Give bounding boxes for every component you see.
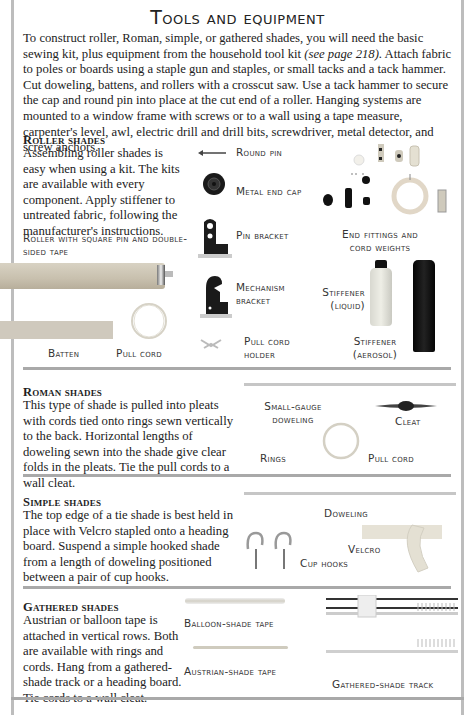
caption-pull-cord: Pull cord — [116, 347, 162, 360]
caption-pin-bracket: Pin bracket — [236, 229, 289, 242]
rings-icon — [320, 420, 362, 462]
doweling-illustration — [244, 383, 456, 386]
caption-cup-hooks: Cup hooks — [300, 557, 348, 570]
page-border-left — [11, 0, 14, 715]
section-body: Austrian or balloon tape is attached in … — [23, 613, 183, 707]
caption-line: cord weights — [330, 241, 430, 254]
end-fittings-illustration — [314, 140, 454, 235]
caption-pull-cord-roman: Pull cord — [368, 452, 414, 465]
austrian-tape-illustration — [193, 646, 288, 649]
pin-bracket-icon — [198, 216, 232, 262]
caption-doweling: Doweling — [324, 507, 368, 520]
caption-line: doweling — [258, 413, 328, 426]
caption-line: Stiffener — [310, 286, 365, 299]
caption-cleat: Cleat — [395, 415, 421, 428]
section-body: Assembling roller shades is easy when us… — [23, 146, 183, 240]
caption-batten: Batten — [48, 347, 79, 360]
caption-stiffener-aerosol: Stiffener (aerosol) — [345, 335, 405, 361]
caption-round-pin: Round pin — [236, 146, 282, 159]
caption-line: Small-gauge — [258, 400, 328, 413]
mechanism-bracket-icon — [198, 274, 232, 322]
caption-metal-end-cap: Metal end cap — [236, 185, 301, 198]
round-pin-icon — [198, 149, 228, 157]
caption-roller: Roller with square pin and double-sided … — [23, 232, 193, 258]
caption-line: Mechanism — [236, 281, 285, 294]
caption-velcro: Velcro — [348, 543, 381, 556]
section-body: This type of shade is pulled into pleats… — [23, 398, 233, 492]
caption-mechanism-bracket: Mechanism bracket — [236, 281, 285, 307]
section-divider — [23, 367, 451, 370]
caption-line: (aerosol) — [345, 348, 405, 361]
caption-rings: Rings — [260, 452, 286, 465]
caption-end-fittings: End fittings and cord weights — [330, 228, 430, 254]
caption-line: Pull cord — [244, 335, 290, 348]
roller-illustration — [0, 263, 165, 289]
roller-pin-icon — [157, 265, 165, 285]
caption-line: holder — [244, 348, 290, 361]
doweling-rod — [244, 492, 456, 495]
caption-line: End fittings and — [330, 228, 430, 241]
pull-cord-holder-icon — [200, 338, 222, 350]
section-body: The top edge of a tie shade is best held… — [23, 508, 238, 586]
batten-illustration — [0, 321, 113, 339]
square-pin-icon — [165, 271, 173, 277]
stiffener-liquid-bottle — [370, 260, 392, 326]
caption-balloon-tape: Balloon-shade tape — [184, 617, 274, 630]
stiffener-aerosol-can — [413, 260, 435, 352]
page-reference: (see page 218). — [304, 47, 382, 61]
caption-stiffener-liquid: Stiffener (liquid) — [310, 286, 365, 312]
page-bottom-border — [11, 697, 464, 700]
caption-gathered-shade-track: Gathered-shade track — [332, 678, 433, 691]
metal-end-cap-icon — [202, 172, 226, 196]
balloon-tape-illustration — [185, 598, 285, 604]
page-title: Tools and equipment — [0, 6, 475, 28]
cup-hooks-icon — [242, 527, 302, 577]
cleat-icon — [375, 400, 437, 412]
page-border-right — [461, 0, 464, 715]
caption-line: bracket — [236, 294, 285, 307]
caption-small-gauge-doweling: Small-gauge doweling — [258, 400, 328, 426]
gathered-shade-track-illustration — [326, 595, 458, 675]
section-divider — [23, 474, 451, 477]
caption-line: Stiffener — [345, 335, 405, 348]
caption-line: (liquid) — [310, 299, 365, 312]
caption-austrian-tape: Austrian-shade tape — [184, 665, 276, 678]
caption-pull-cord-holder: Pull cord holder — [244, 335, 290, 361]
section-divider — [23, 586, 451, 589]
pull-cord-icon — [128, 300, 170, 342]
